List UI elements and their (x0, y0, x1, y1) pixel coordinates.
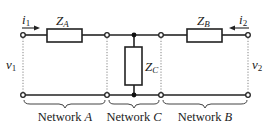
junction-dot-top (132, 33, 137, 38)
terminal-port1-bottom (21, 93, 26, 98)
label-za: ZA (56, 13, 69, 29)
arrow-right-icon (34, 26, 40, 31)
impedance-zc-box (125, 47, 142, 85)
junction-dot-bottom (132, 93, 137, 98)
label-network-c: Network C (106, 110, 162, 124)
impedance-zb-box (187, 29, 222, 42)
label-i2: i2 (239, 12, 247, 28)
terminal-port2-bottom (246, 93, 251, 98)
label-zc: ZC (145, 59, 159, 75)
label-i1: i1 (22, 12, 30, 28)
label-v1: v1 (6, 57, 16, 73)
label-network-a: Network A (38, 110, 93, 124)
arrow-left-icon (229, 26, 235, 31)
terminal-ac-bottom (105, 93, 110, 98)
label-v2: v2 (252, 57, 262, 73)
label-network-b: Network B (178, 110, 233, 124)
impedance-za-box (47, 29, 82, 42)
label-zb: ZB (197, 13, 210, 29)
brace-network-b (163, 100, 247, 108)
terminal-ac-top (105, 33, 110, 38)
terminal-cb-top (159, 33, 164, 38)
brace-network-c (109, 100, 159, 108)
brace-network-a (24, 100, 105, 108)
terminal-cb-bottom (159, 93, 164, 98)
terminal-port2-top (246, 33, 251, 38)
circuit-diagram: i1 i2 ZA ZB ZC v1 v2 Network A Network C… (0, 0, 273, 129)
network-braces (24, 100, 247, 108)
terminal-port1-top (21, 33, 26, 38)
